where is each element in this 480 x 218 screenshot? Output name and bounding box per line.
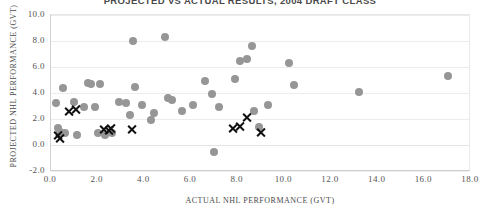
data-point-circle	[243, 55, 251, 63]
gridline-horizontal	[51, 171, 469, 172]
y-tick-label: 4.0	[33, 87, 45, 97]
data-point-circle	[129, 37, 137, 45]
x-tick-label: 10.0	[275, 174, 292, 184]
x-axis-tick-labels: 0.02.04.06.08.010.012.014.016.018.0	[0, 174, 480, 188]
data-point-x	[256, 127, 267, 138]
data-point-x	[71, 104, 82, 115]
data-point-circle	[87, 80, 95, 88]
x-tick-label: 12.0	[321, 174, 338, 184]
data-point-circle	[161, 33, 169, 41]
gridline-horizontal	[51, 119, 469, 120]
data-point-circle	[189, 101, 197, 109]
gridline-horizontal	[51, 41, 469, 42]
x-axis-title: ACTUAL NHL PERFORMANCE (GVT)	[50, 196, 470, 205]
x-tick-label: 6.0	[184, 174, 196, 184]
x-tick-label: 2.0	[90, 174, 102, 184]
gridline-horizontal	[51, 145, 469, 146]
data-point-circle	[290, 81, 298, 89]
data-point-circle	[210, 148, 218, 156]
data-point-circle	[248, 42, 256, 50]
data-point-circle	[355, 88, 363, 96]
gridline-horizontal	[51, 93, 469, 94]
data-point-circle	[147, 116, 155, 124]
data-point-x	[55, 133, 66, 144]
x-tick-label: 4.0	[137, 174, 149, 184]
x-axis-line	[50, 170, 470, 171]
gridline-horizontal	[51, 15, 469, 16]
data-point-circle	[131, 83, 139, 91]
data-point-circle	[59, 84, 67, 92]
data-point-circle	[122, 99, 130, 107]
data-point-circle	[215, 103, 223, 111]
data-point-x	[106, 123, 117, 134]
data-point-circle	[52, 99, 60, 107]
y-tick-label: 10.0	[28, 9, 45, 19]
x-tick-label: 16.0	[415, 174, 432, 184]
data-point-circle	[231, 75, 239, 83]
data-point-x	[127, 124, 138, 135]
data-point-x	[242, 112, 253, 123]
data-point-circle	[138, 101, 146, 109]
gridline-horizontal	[51, 67, 469, 68]
data-point-circle	[208, 90, 216, 98]
data-point-circle	[168, 96, 176, 104]
plot-area	[50, 14, 470, 170]
y-tick-label: 2.0	[33, 113, 45, 123]
x-tick-label: 0.0	[44, 174, 56, 184]
data-point-circle	[96, 80, 104, 88]
scatter-chart: PROJECTED VS ACTUAL RESULTS, 2004 DRAFT …	[0, 0, 480, 218]
data-point-circle	[150, 109, 158, 117]
y-tick-label: 8.0	[33, 35, 45, 45]
data-point-circle	[201, 77, 209, 85]
data-point-circle	[91, 103, 99, 111]
data-point-circle	[264, 101, 272, 109]
y-tick-label: 6.0	[33, 61, 45, 71]
y-tick-label: 0.0	[33, 139, 45, 149]
x-tick-label: 14.0	[368, 174, 385, 184]
x-tick-label: 8.0	[230, 174, 242, 184]
data-point-circle	[73, 131, 81, 139]
x-tick-label: 18.0	[461, 174, 478, 184]
data-point-circle	[178, 107, 186, 115]
data-point-circle	[444, 72, 452, 80]
chart-title: PROJECTED VS ACTUAL RESULTS, 2004 DRAFT …	[0, 0, 480, 6]
data-point-circle	[285, 59, 293, 67]
data-point-circle	[126, 111, 134, 119]
y-axis-title: PROJECTED NHL PERFORMANCE (GVT)	[9, 18, 18, 168]
